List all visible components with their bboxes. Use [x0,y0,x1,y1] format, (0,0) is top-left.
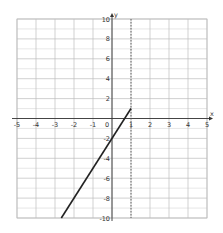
x-tick-label: -2 [71,121,77,129]
x-tick-label: -4 [33,121,39,129]
x-axis-label: x [210,110,214,118]
axes [12,13,213,221]
x-tick-label: 5 [205,121,209,129]
y-tick-label: 8 [106,35,110,43]
y-axis-label: y [114,11,118,19]
y-tick-label: 10 [102,16,110,24]
y-tick-label: -6 [104,175,110,183]
y-tick-label: 4 [106,75,110,83]
x-tick-label: -3 [52,121,58,129]
x-tick-label: 0 [105,121,109,129]
y-tick-label: -10 [99,215,110,223]
tick-labels: -5-4-3-2-1012345-10-8-6-4-2246810 [14,16,209,223]
x-tick-label: -5 [14,121,20,129]
x-tick-label: -1 [90,121,96,129]
x-tick-label: 3 [167,121,171,129]
x-tick-label: 4 [186,121,190,129]
y-tick-label: 6 [106,55,110,63]
y-tick-label: -8 [104,195,110,203]
coordinate-plane-chart: -5-4-3-2-1012345-10-8-6-4-2246810 x y [0,0,223,233]
y-tick-label: 2 [106,95,110,103]
y-tick-label: -4 [104,155,110,163]
x-tick-label: 2 [148,121,152,129]
